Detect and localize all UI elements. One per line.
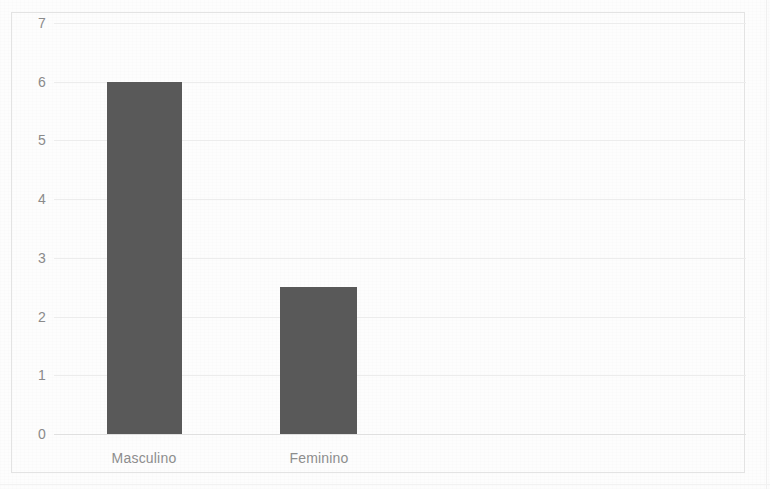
scan-edge-bottom: [0, 484, 770, 485]
bar-series-layer: [54, 23, 746, 434]
y-tick-label-2: 2: [16, 310, 46, 324]
x-axis-category-labels: Masculino Feminino: [54, 450, 746, 474]
scan-edge-right: [766, 0, 767, 489]
y-tick-label-7: 7: [16, 16, 46, 30]
bar-feminino[interactable]: [280, 287, 357, 434]
scanned-chart-page: 7 6 5 4 3 2 1 0 Masculino Fe: [0, 0, 770, 489]
chart-frame: 7 6 5 4 3 2 1 0 Masculino Fe: [11, 12, 745, 473]
y-tick-label-6: 6: [16, 75, 46, 89]
y-tick-label-0: 0: [16, 427, 46, 441]
gridline-0-baseline: [54, 434, 746, 435]
y-tick-label-1: 1: [16, 368, 46, 382]
x-tick-label-masculino: Masculino: [84, 450, 204, 466]
y-tick-label-5: 5: [16, 133, 46, 147]
x-tick-label-feminino: Feminino: [259, 450, 379, 466]
y-axis-tick-labels: 7 6 5 4 3 2 1 0: [12, 23, 46, 434]
y-tick-label-3: 3: [16, 251, 46, 265]
bar-masculino[interactable]: [107, 82, 182, 434]
y-tick-label-4: 4: [16, 192, 46, 206]
